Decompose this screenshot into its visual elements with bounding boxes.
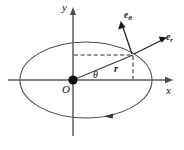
x-axis-arrow-icon: [165, 77, 173, 83]
radius-r-label: r: [114, 64, 118, 74]
y-axis-label: y: [62, 2, 67, 13]
e-r-subscript: r: [170, 36, 173, 44]
angle-theta-label: θ: [93, 70, 98, 80]
e-theta-subscript: θ: [128, 14, 132, 22]
unit-vector-e-r-label: er: [166, 33, 173, 44]
unit-vector-e-theta-arrow-icon: [118, 21, 125, 30]
radius-line: [73, 55, 133, 80]
unit-vector-e-theta-label: eθ: [124, 11, 132, 22]
x-axis-label: x: [166, 85, 171, 96]
y-axis-arrow-icon: [70, 7, 76, 15]
polar-coordinate-diagram: y x O θ r eθ er: [0, 0, 184, 150]
origin-label: O: [62, 84, 70, 95]
diagram-canvas: [0, 0, 184, 150]
unit-vector-e-r-line: [134, 40, 162, 54]
